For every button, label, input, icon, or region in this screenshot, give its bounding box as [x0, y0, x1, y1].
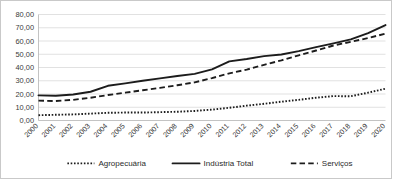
x-tick-label: 2018	[335, 122, 353, 140]
data-series-group	[39, 25, 386, 115]
x-tick-label: 2009	[178, 122, 196, 140]
x-tick-label: 2015	[282, 122, 300, 140]
x-tick-label: 2020	[369, 122, 387, 140]
y-tick-label: 50,00	[16, 50, 35, 59]
y-tick-label: 10,00	[16, 103, 35, 112]
x-tick-label: 2011	[213, 122, 230, 139]
y-tick-label: 60,00	[16, 37, 35, 46]
chart-legend: AgropecuáriaIndústria TotalServiços	[67, 159, 352, 168]
legend-label-serviços: Serviços	[322, 159, 353, 168]
x-tick-label: 2002	[57, 122, 75, 140]
x-tick-label: 2004	[92, 122, 110, 140]
y-tick-label: 70,00	[16, 23, 35, 32]
x-tick-label: 2012	[230, 122, 248, 140]
x-axis-tick-labels: 2000200120022003200420052006200720082009…	[22, 122, 387, 140]
x-tick-label: 2005	[109, 122, 127, 140]
series-line-indústria-total	[39, 25, 386, 96]
x-tick-label: 2003	[74, 122, 92, 140]
x-tick-label: 2017	[317, 122, 335, 140]
y-tick-label: 40,00	[16, 63, 35, 72]
x-tick-label: 2007	[144, 122, 162, 140]
y-tick-label: 80,00	[16, 10, 35, 19]
chart-container: 0,0010,0020,0030,0040,0050,0060,0070,008…	[0, 0, 392, 179]
y-tick-label: 30,00	[16, 76, 35, 85]
line-chart: 0,0010,0020,0030,0040,0050,0060,0070,008…	[1, 1, 393, 180]
x-tick-label: 2008	[161, 122, 179, 140]
y-tick-label: 20,00	[16, 90, 35, 99]
x-tick-label: 2001	[40, 122, 58, 140]
x-tick-label: 2019	[352, 122, 370, 140]
x-tick-label: 2010	[196, 122, 214, 140]
gridlines	[39, 15, 386, 121]
x-tick-label: 2016	[300, 122, 318, 140]
legend-label-agropecuária: Agropecuária	[98, 159, 146, 168]
x-tick-label: 2014	[265, 122, 283, 140]
legend-label-indústria-total: Indústria Total	[204, 159, 254, 168]
x-tick-label: 2013	[248, 122, 266, 140]
x-tick-label: 2006	[126, 122, 144, 140]
y-axis-tick-labels: 0,0010,0020,0030,0040,0050,0060,0070,008…	[16, 10, 35, 125]
